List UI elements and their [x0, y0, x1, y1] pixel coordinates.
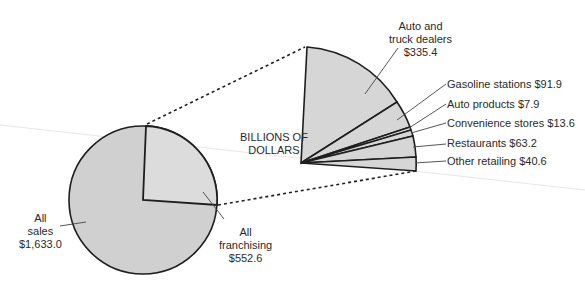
- label-restaurants: Restaurants $63.2: [447, 137, 537, 150]
- label-value: $552.6: [219, 252, 272, 265]
- connector-line-top: [147, 47, 305, 124]
- label-all-sales: All sales $1,633.0: [19, 212, 62, 251]
- unit-label-line1: BILLIONS OF: [240, 131, 308, 144]
- label-all-franchising: All franchising $552.6: [219, 226, 272, 265]
- label-text: All: [219, 226, 272, 239]
- label-auto-products: Auto products $7.9: [447, 98, 539, 111]
- label-value: $1,633.0: [19, 238, 62, 251]
- franchising-breakdown-fan: [301, 47, 416, 171]
- label-value: $335.4: [389, 46, 452, 59]
- label-gasoline: Gasoline stations $91.9: [447, 78, 562, 91]
- label-text: sales: [19, 225, 62, 238]
- unit-label-line2: DOLLARS: [240, 144, 308, 157]
- label-text: franchising: [219, 239, 272, 252]
- label-convenience: Convenience stores $13.6: [447, 117, 575, 130]
- pie-slice-all-franchising: [143, 126, 217, 205]
- connector-line-bottom: [218, 171, 416, 205]
- label-auto-dealers: Auto and truck dealers $335.4: [389, 20, 452, 59]
- label-text: Auto and: [389, 20, 452, 33]
- label-other-retailing: Other retailing $40.6: [447, 155, 547, 168]
- unit-label: BILLIONS OF DOLLARS: [240, 131, 308, 157]
- label-text: All: [19, 212, 62, 225]
- label-text: truck dealers: [389, 33, 452, 46]
